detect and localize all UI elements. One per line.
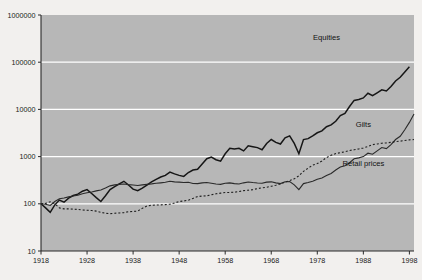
annotation-equities: Equities: [313, 33, 340, 42]
x-tick-label-1928: 1928: [79, 256, 95, 265]
x-tick-label-1938: 1938: [125, 256, 141, 265]
annotation-retail-prices: Retail prices: [342, 159, 384, 168]
y-tick-label-10: 10: [28, 247, 36, 256]
x-axis-labels: 191819281938194819581968197819881998: [33, 256, 417, 265]
y-tick-label-100: 100: [24, 199, 36, 208]
chart-container: 100000010000010000100010010 191819281938…: [0, 0, 422, 280]
y-tick-label-1000000: 1000000: [8, 11, 36, 20]
y-tick-label-10000: 10000: [16, 105, 36, 114]
y-tick-label-1000: 1000: [20, 152, 36, 161]
x-tick-label-1988: 1988: [355, 256, 371, 265]
x-tick-label-1948: 1948: [171, 256, 187, 265]
x-tick-label-1968: 1968: [263, 256, 279, 265]
investment-returns-log-chart: 100000010000010000100010010 191819281938…: [0, 0, 422, 280]
x-tick-label-1998: 1998: [401, 256, 417, 265]
plot-area-background: [41, 15, 414, 251]
y-tick-label-100000: 100000: [12, 58, 36, 67]
annotation-gilts: Gilts: [356, 120, 371, 129]
x-tick-label-1978: 1978: [309, 256, 325, 265]
x-tick-label-1918: 1918: [33, 256, 49, 265]
x-tick-label-1958: 1958: [217, 256, 233, 265]
